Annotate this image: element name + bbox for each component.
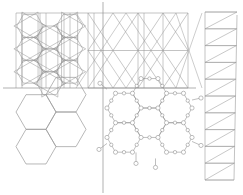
atom-node xyxy=(190,135,194,139)
bond-midpoint-node xyxy=(173,121,176,124)
atom-node xyxy=(156,106,160,110)
atom-node xyxy=(113,91,117,95)
bond-midpoint-node xyxy=(135,99,138,102)
atom-node xyxy=(139,76,143,80)
star-triangle-up xyxy=(42,23,66,51)
atom-node xyxy=(181,91,185,95)
honeycomb-cell xyxy=(46,112,86,147)
bond-midpoint-node xyxy=(148,77,151,80)
bond-midpoint-node xyxy=(161,114,164,117)
atom-node xyxy=(156,76,160,80)
ladder-diagonal xyxy=(205,46,236,63)
star-triangle-up xyxy=(22,58,46,86)
bond-midpoint-node xyxy=(110,128,113,131)
bond-midpoint-node xyxy=(161,99,164,102)
bond-midpoint-node xyxy=(122,92,125,95)
bond-midpoint-node xyxy=(110,99,113,102)
panel-triangular-lattice xyxy=(76,13,202,88)
atom-node xyxy=(139,135,143,139)
bond-midpoint-node xyxy=(135,143,138,146)
bond-midpoint-node xyxy=(110,143,113,146)
atom-node xyxy=(164,121,168,125)
star-triangle-down xyxy=(14,58,38,86)
bond-midpoint-node xyxy=(186,128,189,131)
ladder-diagonal xyxy=(205,62,236,79)
atom-node xyxy=(190,106,194,110)
figure-canvas xyxy=(0,0,243,195)
ladder-right-rail xyxy=(234,15,237,180)
atom-node xyxy=(105,135,109,139)
atom-node xyxy=(199,143,203,147)
ladder-diagonal xyxy=(205,146,235,163)
star-triangle-up xyxy=(42,46,66,74)
panel-star-tiling xyxy=(14,12,88,97)
atom-node xyxy=(153,165,157,169)
bond-midpoint-node xyxy=(110,114,113,117)
atom-node xyxy=(139,106,143,110)
panel-triangle-ladder xyxy=(205,12,237,180)
atom-node xyxy=(181,121,185,125)
bond-midpoint-node xyxy=(186,99,189,102)
bond-midpoint-node xyxy=(135,128,138,131)
atom-node xyxy=(156,135,160,139)
panel-molecular-network xyxy=(97,76,203,169)
atom-node xyxy=(105,106,109,110)
ladder-diagonal xyxy=(205,96,236,113)
atom-node xyxy=(113,121,117,125)
atom-node xyxy=(97,147,101,151)
bond-midpoint-node xyxy=(148,136,151,139)
star-triangle-up xyxy=(62,12,86,40)
ladder-diagonal xyxy=(205,12,237,29)
bond-midpoint-node xyxy=(122,150,125,153)
bond-midpoint-node xyxy=(173,92,176,95)
star-triangle-up xyxy=(22,35,46,63)
bond-midpoint-node xyxy=(173,150,176,153)
ladder-diagonal xyxy=(205,130,235,147)
ladder-diagonal xyxy=(205,163,234,180)
panel-honeycomb xyxy=(16,77,86,164)
ladder-diagonal xyxy=(205,29,237,46)
bond-midpoint-node xyxy=(161,84,164,87)
atom-node xyxy=(164,150,168,154)
atom-node xyxy=(130,91,134,95)
star-triangle-down xyxy=(54,35,78,63)
atom-node xyxy=(113,150,117,154)
honeycomb-cell xyxy=(16,95,56,130)
bond-midpoint-node xyxy=(161,143,164,146)
atom-node xyxy=(98,81,102,85)
bond-midpoint-node xyxy=(186,114,189,117)
star-triangle-down xyxy=(54,12,78,40)
bond-midpoint-node xyxy=(148,106,151,109)
star-triangle-up xyxy=(62,58,86,86)
star-triangle-up xyxy=(62,35,86,63)
star-triangle-up xyxy=(22,12,46,40)
bond-midpoint-node xyxy=(122,121,125,124)
bond-midpoint-node xyxy=(135,114,138,117)
atom-node xyxy=(181,150,185,154)
atom-node xyxy=(130,121,134,125)
honeycomb-cell xyxy=(16,129,56,164)
star-triangle-down xyxy=(14,12,38,40)
lattice-diagram-svg xyxy=(0,0,243,195)
atom-node xyxy=(134,161,138,165)
atom-node xyxy=(130,150,134,154)
ladder-diagonal xyxy=(205,79,236,96)
star-triangle-down xyxy=(54,58,78,86)
atom-node xyxy=(164,91,168,95)
bond-midpoint-node xyxy=(186,143,189,146)
bond-midpoint-node xyxy=(161,128,164,131)
bond-midpoint-node xyxy=(135,84,138,87)
star-triangle-up xyxy=(42,69,66,97)
ladder-diagonal xyxy=(205,113,235,130)
star-triangle-down xyxy=(14,35,38,63)
atom-node xyxy=(199,96,203,100)
